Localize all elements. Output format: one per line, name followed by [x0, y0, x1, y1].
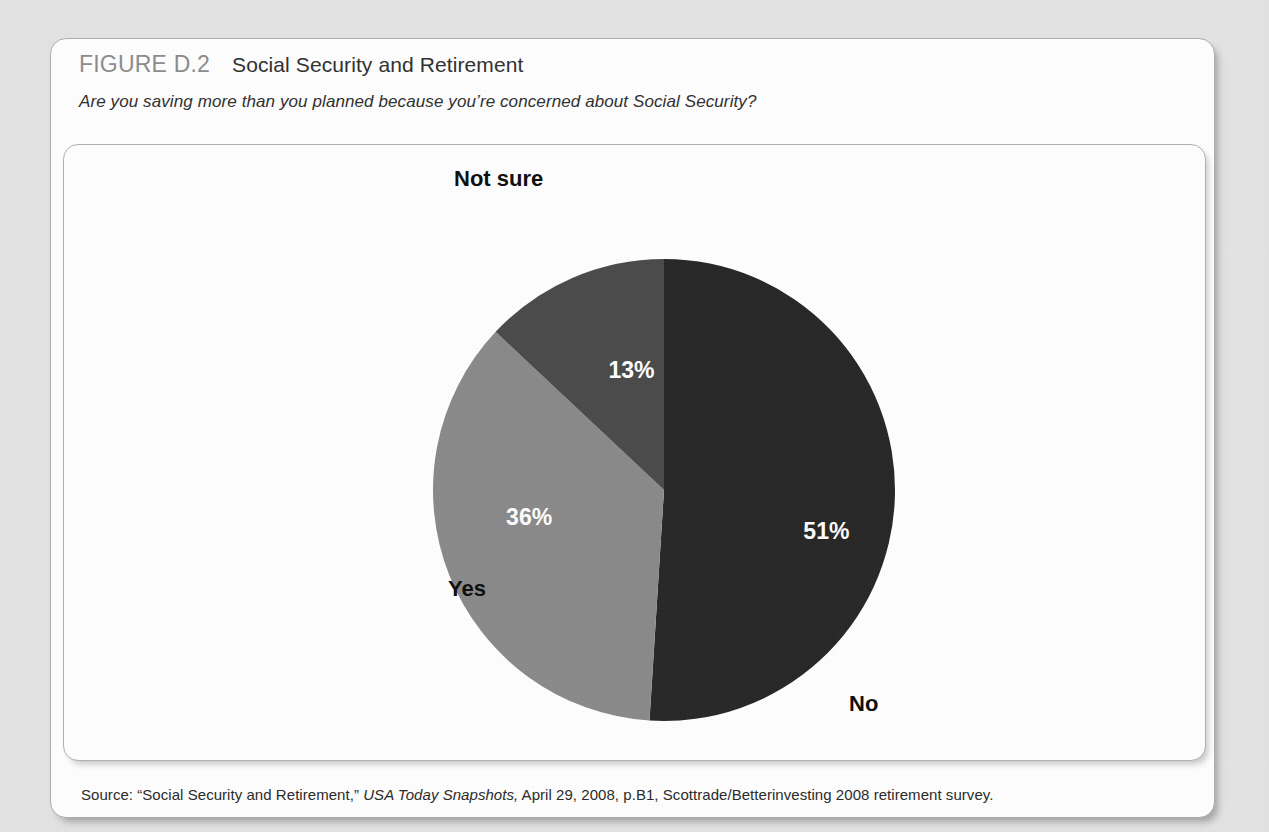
pie-chart-svg: 51%36%13%NoYesNot sure: [64, 145, 1206, 761]
figure-card: FIGURE D.2 Social Security and Retiremen…: [50, 38, 1215, 818]
source-suffix: April 29, 2008, p.B1, Scottrade/Betterin…: [518, 786, 993, 803]
pie-slice-no[interactable]: [649, 259, 895, 721]
pie-category-label-no: No: [849, 691, 878, 716]
figure-title-line: FIGURE D.2 Social Security and Retiremen…: [79, 51, 1194, 78]
pie-category-label-yes: Yes: [448, 576, 486, 601]
chart-panel: 51%36%13%NoYesNot sure: [63, 144, 1206, 761]
pie-value-label-yes: 36%: [506, 504, 552, 530]
source-prefix: Source: “Social Security and Retirement,…: [81, 786, 363, 803]
figure-number: FIGURE D.2: [79, 51, 210, 78]
pie-value-label-no: 51%: [803, 518, 849, 544]
source-publication: USA Today Snapshots,: [363, 786, 518, 803]
pie-category-label-not-sure: Not sure: [454, 166, 543, 191]
pie-value-label-not-sure: 13%: [608, 357, 654, 383]
figure-header: FIGURE D.2 Social Security and Retiremen…: [79, 51, 1194, 112]
figure-question: Are you saving more than you planned bec…: [79, 92, 1194, 112]
page-title: Social Security and Retirement: [232, 53, 523, 77]
pie-chart: 51%36%13%NoYesNot sure: [64, 145, 1205, 760]
figure-source: Source: “Social Security and Retirement,…: [81, 786, 993, 803]
